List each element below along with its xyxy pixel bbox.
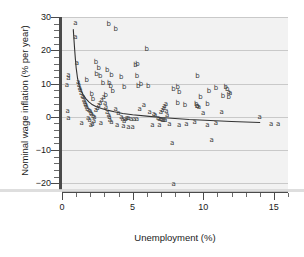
data-point-b: b <box>198 93 202 100</box>
data-point-b: b <box>214 84 218 91</box>
y-tick-minor <box>54 170 59 171</box>
y-tick-major <box>51 150 59 151</box>
data-point-b: b <box>226 93 230 100</box>
data-point-b: b <box>135 61 139 68</box>
y-tick-label: 30 <box>41 12 51 22</box>
x-tick-minor <box>90 193 91 197</box>
y-tick-minor <box>54 64 59 65</box>
data-point-b: b <box>106 20 110 27</box>
x-tick-label: 0 <box>59 202 64 212</box>
data-point-a: a <box>165 111 169 118</box>
x-axis-ticks: 051015 <box>62 193 288 223</box>
plot-area: aaaaaaaaaaaaaaaaaaaaaaaaaaaaaaaaaaaaaaaa… <box>62 17 288 190</box>
data-point-a: a <box>142 102 146 109</box>
data-point-b: b <box>84 76 88 83</box>
y-tick-major <box>51 50 59 51</box>
data-point-a: a <box>73 33 77 40</box>
y-tick-minor <box>54 97 59 98</box>
y-tick-label: 0 <box>46 112 51 122</box>
data-point-a: a <box>135 115 139 122</box>
data-point-b: b <box>101 79 105 86</box>
data-point-a: a <box>167 121 171 128</box>
y-tick-minor <box>54 104 59 105</box>
x-tick-minor <box>76 193 77 197</box>
data-point-a: a <box>65 81 69 88</box>
data-point-a: a <box>66 115 70 122</box>
x-tick-label: 10 <box>198 202 208 212</box>
data-point-a: a <box>201 109 205 116</box>
data-point-a: a <box>210 137 214 144</box>
x-tick-minor <box>161 193 162 197</box>
y-tick-minor <box>54 90 59 91</box>
data-point-a: a <box>205 122 209 129</box>
x-tick-minor <box>119 193 120 197</box>
x-tick-minor <box>189 193 190 197</box>
x-tick-minor <box>104 193 105 197</box>
y-tick-major <box>51 17 59 18</box>
data-point-b: b <box>195 72 199 79</box>
data-point-b: b <box>111 87 115 94</box>
data-point-b: b <box>146 82 150 89</box>
data-point-b: b <box>225 85 229 92</box>
y-tick-minor <box>54 143 59 144</box>
x-tick-major <box>203 193 204 200</box>
y-tick-minor <box>54 37 59 38</box>
data-point-b: b <box>104 91 108 98</box>
data-point-b: b <box>207 87 211 94</box>
y-axis-line <box>59 17 62 190</box>
data-point-a: a <box>276 120 280 127</box>
data-point-a: a <box>193 118 197 125</box>
x-tick-minor <box>260 193 261 197</box>
data-point-a: a <box>80 120 84 127</box>
data-point-a: a <box>184 121 188 128</box>
figure-scatter-phillips-curve: aaaaaaaaaaaaaaaaaaaaaaaaaaaaaaaaaaaaaaaa… <box>0 0 304 257</box>
x-tick-minor <box>288 193 289 197</box>
data-point-a: a <box>109 119 113 126</box>
y-tick-major <box>51 84 59 85</box>
data-point-b: b <box>176 99 180 106</box>
y-tick-label: 20 <box>41 45 51 55</box>
data-point-b: b <box>183 101 187 108</box>
y-tick-minor <box>54 30 59 31</box>
x-axis-title: Unemployment (%) <box>62 232 288 243</box>
data-point-a: a <box>73 19 77 26</box>
y-tick-minor <box>54 177 59 178</box>
y-axis-title: Nominal wage inflation (% per year) <box>19 1 30 201</box>
x-tick-minor <box>232 193 233 197</box>
y-tick-minor <box>54 77 59 78</box>
data-point-a: a <box>157 122 161 129</box>
data-point-a: a <box>258 114 262 121</box>
y-tick-minor <box>54 110 59 111</box>
data-point-b: b <box>195 102 199 109</box>
scan-artifact-line <box>0 189 304 192</box>
data-point-a: a <box>219 109 223 116</box>
data-point-b: b <box>221 92 225 99</box>
data-point-b: b <box>139 81 143 88</box>
data-point-a: a <box>171 181 175 188</box>
data-point-a: a <box>99 120 103 127</box>
data-point-a: a <box>177 121 181 128</box>
y-tick-major <box>51 183 59 184</box>
data-point-b: b <box>135 72 139 79</box>
y-tick-label: 10 <box>41 79 51 89</box>
data-point-b: b <box>91 95 95 102</box>
data-point-a: a <box>150 121 154 128</box>
x-tick-minor <box>175 193 176 197</box>
y-tick-minor <box>54 157 59 158</box>
y-tick-minor <box>54 137 59 138</box>
data-point-b: b <box>145 45 149 52</box>
y-tick-minor <box>54 57 59 58</box>
data-point-b: b <box>113 25 117 32</box>
data-point-b: b <box>122 84 126 91</box>
y-tick-minor <box>54 130 59 131</box>
data-point-a: a <box>214 120 218 127</box>
y-tick-label: −10 <box>36 145 51 155</box>
x-tick-major <box>274 193 275 200</box>
y-axis-ticks: 3020100−10−20 <box>0 17 59 190</box>
data-point-b: b <box>205 100 209 107</box>
y-tick-major <box>51 117 59 118</box>
y-tick-minor <box>54 44 59 45</box>
x-tick-minor <box>147 193 148 197</box>
data-point-b: b <box>177 89 181 96</box>
x-tick-label: 15 <box>269 202 279 212</box>
